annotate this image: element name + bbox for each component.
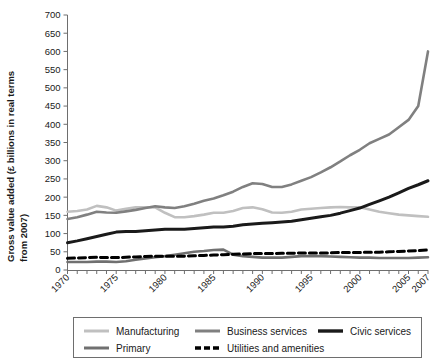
- x-tick-label: 1985: [195, 272, 218, 295]
- x-tick-label: 2000: [341, 272, 364, 295]
- legend-label-primary: Primary: [116, 343, 150, 354]
- chart-figure: Gross value added (£ billions in real te…: [0, 0, 436, 364]
- y-tick-label: 600: [45, 46, 61, 57]
- y-tick-label: 450: [45, 100, 61, 111]
- x-tick-label: 1975: [97, 272, 120, 295]
- y-tick-label: 650: [45, 28, 61, 39]
- chart-svg: Gross value added (£ billions in real te…: [0, 0, 436, 364]
- series-lines-group: [68, 51, 429, 262]
- y-tick-label: 300: [45, 155, 61, 166]
- x-tick-label: 1990: [244, 272, 267, 295]
- y-tick-label: 550: [45, 64, 61, 75]
- x-tick-label: 1970: [49, 272, 72, 295]
- y-tick-label: 100: [45, 228, 61, 239]
- legend-label-business-services: Business services: [227, 326, 307, 337]
- y-tick-label: 0: [55, 264, 60, 275]
- x-tick-label: 1980: [146, 272, 169, 295]
- x-tick-label: 2007: [409, 272, 432, 295]
- y-tick-label: 400: [45, 119, 61, 130]
- y-axis-title: Gross value added (£ billions in real te…: [5, 71, 16, 262]
- y-tick-label: 350: [45, 137, 61, 148]
- x-axis-ticks: 197019751980198519901995200020052007: [49, 270, 432, 294]
- y-tick-label: 700: [45, 9, 61, 20]
- legend-label-manufacturing: Manufacturing: [116, 326, 179, 337]
- x-tick-label: 2005: [390, 272, 413, 295]
- y-axis-title-line2: from 2007): [18, 214, 29, 262]
- series-line-primary: [68, 250, 429, 262]
- y-tick-label: 200: [45, 192, 61, 203]
- legend-label-utilities-and-amenities: Utilities and amenities: [227, 343, 324, 354]
- y-tick-label: 150: [45, 210, 61, 221]
- series-line-business-services: [68, 51, 429, 219]
- legend-label-civic-services: Civic services: [350, 326, 411, 337]
- y-tick-label: 250: [45, 173, 61, 184]
- y-tick-label: 500: [45, 82, 61, 93]
- y-tick-label: 50: [50, 246, 61, 257]
- legend-entries-group: ManufacturingBusiness servicesCivic serv…: [84, 326, 411, 354]
- y-axis-ticks: 0501001502002503003504004505005506006507…: [45, 9, 68, 275]
- x-tick-label: 1995: [292, 272, 315, 295]
